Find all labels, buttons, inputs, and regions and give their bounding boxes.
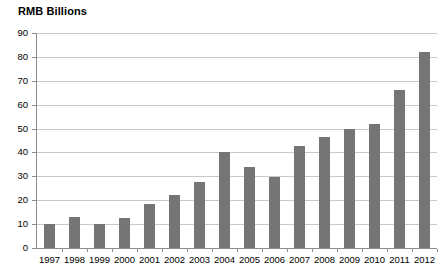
x-tick-mark [312, 249, 313, 252]
x-tick-mark [162, 249, 163, 252]
x-tick-mark [437, 249, 438, 252]
x-tick-mark [362, 249, 363, 252]
y-tick-label: 70 [6, 76, 28, 86]
gridline [37, 81, 437, 82]
y-tick-label: 20 [6, 195, 28, 205]
bar [119, 218, 130, 248]
bar [344, 129, 355, 248]
y-tick-mark [32, 57, 36, 58]
bar-chart: RMB Billions 0102030405060708090 1997199… [0, 0, 445, 276]
y-tick-mark [32, 152, 36, 153]
bar [194, 182, 205, 248]
y-tick-label: 50 [6, 124, 28, 134]
y-tick-label: 30 [6, 171, 28, 181]
bar [94, 224, 105, 248]
bar [394, 90, 405, 248]
bar [319, 137, 330, 248]
x-tick-mark [387, 249, 388, 252]
x-tick-mark [237, 249, 238, 252]
gridline [37, 57, 437, 58]
bar [169, 195, 180, 248]
bar [144, 204, 155, 248]
y-tick-label: 10 [6, 219, 28, 229]
y-tick-mark [32, 129, 36, 130]
chart-title: RMB Billions [18, 5, 87, 17]
y-tick-mark [32, 105, 36, 106]
y-tick-mark [32, 248, 36, 249]
y-tick-label: 80 [6, 52, 28, 62]
x-tick-mark [212, 249, 213, 252]
x-tick-mark [262, 249, 263, 252]
y-tick-mark [32, 176, 36, 177]
y-tick-label: 60 [6, 100, 28, 110]
x-tick-mark [137, 249, 138, 252]
y-tick-mark [32, 33, 36, 34]
y-tick-label: 40 [6, 147, 28, 157]
y-tick-mark [32, 224, 36, 225]
y-tick-label: 90 [6, 28, 28, 38]
x-tick-mark [62, 249, 63, 252]
bar [269, 177, 280, 248]
x-tick-label: 2012 [410, 255, 440, 265]
x-tick-mark [412, 249, 413, 252]
bar [219, 152, 230, 248]
bar [69, 217, 80, 248]
bar [44, 224, 55, 248]
x-tick-mark [287, 249, 288, 252]
gridline [37, 33, 437, 34]
bar [419, 52, 430, 248]
gridline [37, 105, 437, 106]
y-tick-label: 0 [6, 243, 28, 253]
x-tick-mark [187, 249, 188, 252]
y-tick-mark [32, 200, 36, 201]
bar [294, 146, 305, 248]
x-tick-mark [87, 249, 88, 252]
y-tick-mark [32, 81, 36, 82]
x-tick-mark [112, 249, 113, 252]
bar [244, 167, 255, 248]
x-tick-mark [337, 249, 338, 252]
bar [369, 124, 380, 248]
plot-area [37, 33, 437, 248]
